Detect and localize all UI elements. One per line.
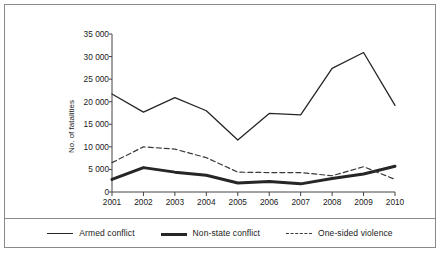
legend-swatch-solid-thin-icon bbox=[47, 229, 73, 237]
figure-frame: No. of fatalities 05 00010 00015 00020 0… bbox=[4, 4, 436, 248]
chart-canvas bbox=[5, 5, 435, 218]
legend-item-non-state-conflict: Non-state conflict bbox=[161, 228, 260, 238]
x-tick-label: 2001 bbox=[103, 197, 121, 207]
legend-label: Non-state conflict bbox=[193, 228, 260, 238]
x-tick-label: 2003 bbox=[166, 197, 184, 207]
chart-legend: Armed conflict Non-state conflict One-si… bbox=[5, 219, 435, 247]
x-tick-label: 2010 bbox=[386, 197, 404, 207]
legend-item-one-sided-violence: One-sided violence bbox=[286, 228, 393, 238]
legend-item-armed-conflict: Armed conflict bbox=[47, 228, 134, 238]
legend-swatch-dashed-icon bbox=[286, 229, 312, 237]
series-line-armed-conflict bbox=[112, 53, 395, 141]
x-tick-label: 2004 bbox=[197, 197, 215, 207]
x-tick-marks bbox=[112, 192, 395, 196]
x-tick-label: 2006 bbox=[260, 197, 278, 207]
plot-area: No. of fatalities 05 00010 00015 00020 0… bbox=[5, 5, 435, 218]
series-lines bbox=[112, 53, 395, 184]
x-tick-label: 2009 bbox=[354, 197, 372, 207]
legend-swatch-solid-thick-icon bbox=[161, 229, 187, 237]
chart-screenshot: No. of fatalities 05 00010 00015 00020 0… bbox=[0, 0, 442, 262]
x-tick-label: 2008 bbox=[323, 197, 341, 207]
x-tick-label: 2005 bbox=[229, 197, 247, 207]
series-line-non-state-conflict bbox=[112, 166, 395, 184]
legend-label: One-sided violence bbox=[318, 228, 393, 238]
x-tick-label: 2002 bbox=[134, 197, 152, 207]
x-tick-label: 2007 bbox=[291, 197, 309, 207]
legend-label: Armed conflict bbox=[79, 228, 134, 238]
